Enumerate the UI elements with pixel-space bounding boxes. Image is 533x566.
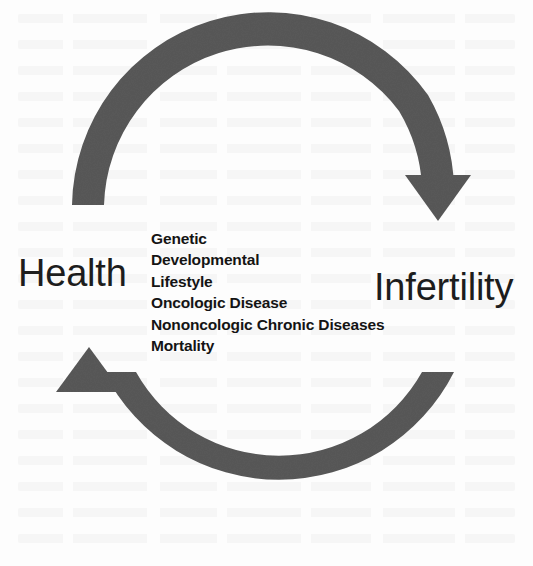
bottom-arc-arrow — [56, 347, 454, 480]
factor-list-item: Lifestyle — [151, 271, 384, 292]
factor-list-item: Mortality — [151, 335, 384, 356]
diagram-canvas: Health Infertility Genetic Developmental… — [0, 0, 533, 566]
factor-list-item: Genetic — [151, 228, 384, 249]
factor-list: Genetic Developmental Lifestyle Oncologi… — [151, 228, 384, 356]
factor-list-item: Developmental — [151, 249, 384, 270]
top-arc-arrow — [72, 12, 471, 221]
factor-list-item: Oncologic Disease — [151, 292, 384, 313]
node-label-infertility: Infertility — [374, 268, 513, 306]
node-label-health: Health — [18, 254, 127, 292]
factor-list-item: Nononcologic Chronic Diseases — [151, 314, 384, 335]
